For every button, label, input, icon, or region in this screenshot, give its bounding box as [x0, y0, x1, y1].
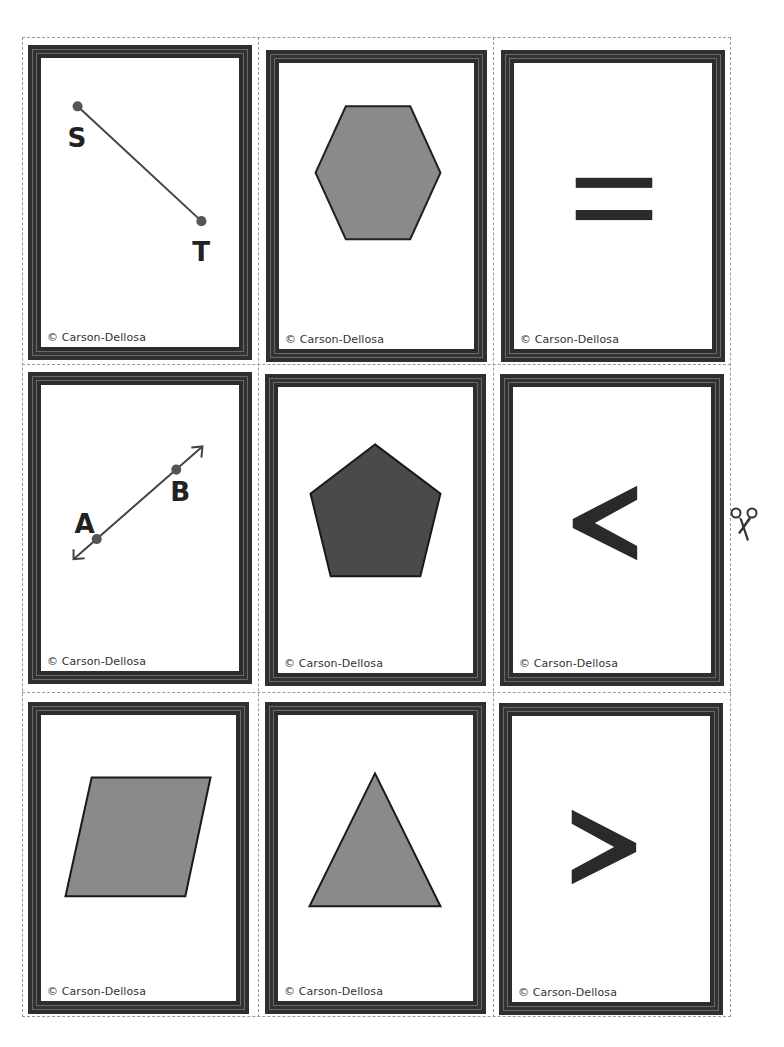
card-face: © Carson-Dellosa	[278, 715, 473, 1001]
cut-guide-horizontal-1	[22, 364, 731, 365]
card-face: © Carson-Dellosa	[279, 63, 474, 349]
line-segment-diagram: S T	[41, 58, 239, 347]
card-face: © Carson-Dellosa	[512, 716, 710, 1002]
card-face: © Carson-Dellosa	[513, 387, 711, 673]
card-face: © Carson-Dellosa	[514, 63, 712, 349]
label-b: B	[170, 477, 190, 507]
copyright-text: © Carson-Dellosa	[47, 985, 146, 998]
less-than-symbol	[513, 387, 711, 673]
card-equals[interactable]: © Carson-Dellosa	[501, 50, 725, 362]
card-line-ab[interactable]: A B © Carson-Dellosa	[28, 372, 252, 684]
copyright-text: © Carson-Dellosa	[520, 333, 619, 346]
card-face: A B © Carson-Dellosa	[41, 385, 239, 671]
copyright-text: © Carson-Dellosa	[519, 657, 618, 670]
cut-guide-horizontal-2	[22, 692, 731, 693]
copyright-text: © Carson-Dellosa	[518, 986, 617, 999]
card-greater-than[interactable]: © Carson-Dellosa	[499, 703, 723, 1015]
card-triangle[interactable]: © Carson-Dellosa	[265, 702, 486, 1014]
card-segment-st[interactable]: S T © Carson-Dellosa	[28, 45, 252, 360]
triangle-shape	[278, 715, 473, 1001]
label-s: S	[67, 123, 86, 153]
greater-than-symbol	[512, 716, 710, 1002]
card-face: © Carson-Dellosa	[278, 387, 473, 673]
copyright-text: © Carson-Dellosa	[284, 657, 383, 670]
cut-guide-vertical-1	[258, 37, 259, 1017]
line-diagram: A B	[41, 385, 239, 671]
copyright-text: © Carson-Dellosa	[47, 331, 146, 344]
hexagon-shape	[279, 63, 474, 349]
card-hexagon[interactable]: © Carson-Dellosa	[266, 50, 487, 362]
pentagon-shape	[278, 387, 473, 673]
label-a: A	[75, 509, 96, 539]
copyright-text: © Carson-Dellosa	[285, 333, 384, 346]
card-pentagon[interactable]: © Carson-Dellosa	[265, 374, 486, 686]
equals-symbol	[514, 63, 712, 349]
scissors-icon	[728, 505, 760, 545]
parallelogram-shape	[41, 715, 236, 1001]
card-face: © Carson-Dellosa	[41, 715, 236, 1001]
card-face: S T © Carson-Dellosa	[41, 58, 239, 347]
copyright-text: © Carson-Dellosa	[47, 655, 146, 668]
cut-guide-vertical-2	[493, 37, 494, 1017]
label-t: T	[192, 237, 210, 267]
card-parallelogram[interactable]: © Carson-Dellosa	[28, 702, 249, 1014]
copyright-text: © Carson-Dellosa	[284, 985, 383, 998]
card-less-than[interactable]: © Carson-Dellosa	[500, 374, 724, 686]
